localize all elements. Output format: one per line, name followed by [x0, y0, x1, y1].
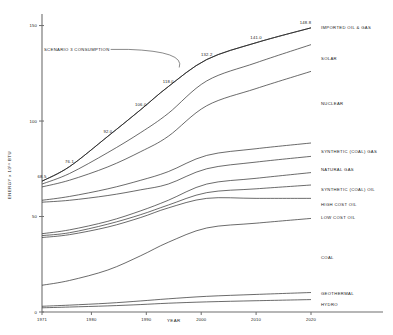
annotation-label: SCENARIO 3 CONSUMPTION	[44, 47, 110, 52]
x-tick-label: 1980	[86, 317, 97, 322]
point-label: 106.0	[135, 102, 147, 107]
x-tick-label: 1990	[141, 317, 152, 322]
y-tick-label: 0	[34, 310, 37, 315]
x-tick-label: 2020	[306, 317, 317, 322]
energy-supply-chart: 050100150 197119801990200020102020 IMPOR…	[0, 0, 393, 335]
series-curves	[42, 28, 311, 308]
series-label: HYDRO	[321, 302, 338, 307]
series-curve	[42, 293, 311, 307]
point-label: 141.0	[250, 35, 262, 40]
series-curve	[42, 300, 311, 308]
series-curve	[42, 198, 311, 238]
x-tick-label: 2000	[196, 317, 207, 322]
y-axis-title: ENERGY x 10¹⁵ BTU	[7, 151, 12, 199]
series-curve	[42, 218, 311, 285]
y-tick-label: 150	[29, 23, 37, 28]
series-curve	[42, 156, 311, 202]
series-label: IMPORTED OIL & GAS	[321, 25, 371, 30]
series-label: LOW COST OIL	[321, 215, 356, 220]
series-label: SYNTHETIC (COAL) OIL	[321, 187, 375, 192]
series-label: NATURAL GAS	[321, 167, 354, 172]
y-tick-label: 100	[29, 119, 37, 124]
series-label: COAL	[321, 255, 334, 260]
point-label: 132.2	[201, 52, 213, 57]
point-label: 92.0	[103, 129, 112, 134]
series-label: GEOTHERMAL	[321, 291, 354, 296]
scenario-annotation: SCENARIO 3 CONSUMPTION	[44, 47, 180, 68]
series-label: HIGH COST OIL	[321, 202, 357, 207]
point-label: 148.8	[300, 20, 312, 25]
series-label: SYNTHETIC (COAL) GAS	[321, 149, 377, 154]
point-label: 68.5	[38, 174, 47, 179]
chart-canvas: 050100150 197119801990200020102020 IMPOR…	[0, 0, 393, 335]
x-tick-label: 2010	[251, 317, 262, 322]
y-tick-label: 50	[32, 214, 38, 219]
annotation-leader-line	[111, 49, 180, 67]
series-curve	[42, 185, 311, 236]
data-point-labels: 68.576.192.0106.0118.0132.2141.0148.8	[38, 20, 312, 178]
series-curve	[42, 71, 311, 187]
x-axis-title: YEAR	[167, 318, 181, 323]
series-curve	[42, 45, 311, 184]
series-label: SOLAR	[321, 56, 337, 61]
point-label: 76.1	[65, 159, 74, 164]
series-label: NUCLEAR	[321, 101, 343, 106]
x-tick-label: 1971	[37, 317, 48, 322]
point-label: 118.0	[163, 79, 175, 84]
series-labels: IMPORTED OIL & GASSOLARNUCLEARSYNTHETIC …	[321, 25, 377, 307]
series-curve	[42, 173, 311, 234]
series-curve	[42, 143, 311, 200]
